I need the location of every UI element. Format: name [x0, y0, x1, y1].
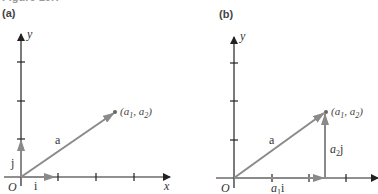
vector-a-label: a — [55, 133, 61, 147]
panel-b: y O a a1i a2j (a1, a2) — [216, 29, 378, 194]
vector-diagram: y x O a i j (a1, a2) y O a a1i a2j (a1, … — [0, 0, 378, 194]
vector-a1i-label: a1i — [271, 181, 285, 194]
vector-a2j-label: a2j — [330, 142, 343, 158]
vector-j-label: j — [10, 156, 14, 170]
point-label: (a1, a2) — [331, 105, 363, 120]
point-a1-a2 — [113, 110, 117, 114]
vector-a — [234, 113, 324, 178]
panel-a: y x O a i j (a1, a2) — [4, 27, 170, 194]
y-axis-label: y — [239, 29, 246, 43]
point-label: (a1, a2) — [120, 105, 152, 120]
origin-label: O — [8, 180, 17, 194]
vector-a — [21, 113, 114, 177]
vector-a-label: a — [269, 133, 275, 147]
x-axis-label: x — [163, 179, 170, 193]
y-axis-label: y — [26, 27, 33, 41]
origin-label: O — [221, 181, 230, 194]
vector-i-label: i — [34, 179, 38, 193]
point-a1-a2 — [324, 110, 328, 114]
